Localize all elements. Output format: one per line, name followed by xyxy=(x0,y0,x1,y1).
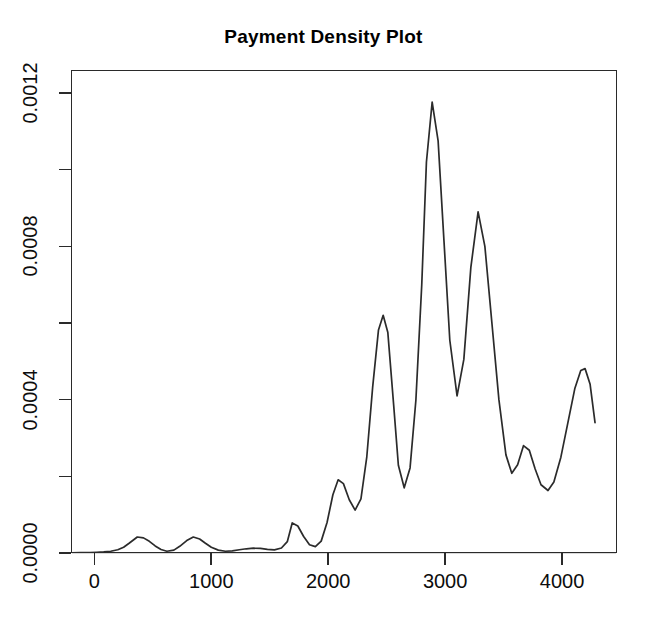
y-tick-mark xyxy=(59,92,71,94)
y-tick-mark xyxy=(59,552,71,554)
x-tick-label: 0 xyxy=(89,570,100,593)
y-tick-label: 0.0012 xyxy=(19,62,42,123)
y-minor-tick-mark xyxy=(59,169,71,171)
y-tick-label: 0.0008 xyxy=(19,216,42,277)
y-minor-tick-mark xyxy=(59,476,71,478)
y-tick-mark xyxy=(59,246,71,248)
density-plot-figure: Payment Density Plot 01000200030004000 0… xyxy=(0,0,647,621)
zero-reference-line xyxy=(72,553,616,554)
chart-title: Payment Density Plot xyxy=(0,26,647,48)
y-minor-tick-mark xyxy=(59,322,71,324)
y-tick-label: 0.0000 xyxy=(19,522,42,583)
density-curve-svg xyxy=(71,70,617,553)
x-tick-mark xyxy=(327,553,329,565)
x-tick-label: 4000 xyxy=(540,570,585,593)
x-tick-mark xyxy=(94,553,96,565)
x-tick-label: 3000 xyxy=(423,570,468,593)
density-curve xyxy=(71,102,595,553)
x-tick-mark xyxy=(444,553,446,565)
x-tick-mark xyxy=(210,553,212,565)
x-tick-label: 2000 xyxy=(306,570,351,593)
y-tick-mark xyxy=(59,399,71,401)
y-tick-label: 0.0004 xyxy=(19,369,42,430)
x-tick-mark xyxy=(561,553,563,565)
x-tick-label: 1000 xyxy=(189,570,234,593)
